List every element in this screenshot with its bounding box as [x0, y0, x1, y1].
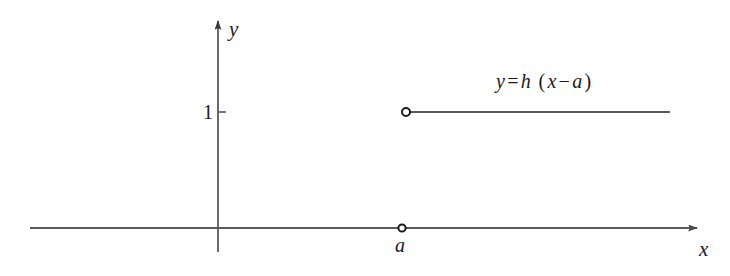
equation-equals: = — [505, 70, 521, 92]
equation-lhs: y — [496, 70, 505, 92]
curve-equation-label: y=h (x−a) — [496, 70, 593, 93]
step-left-endpoint-open-circle — [402, 108, 410, 116]
y-axis-label: y — [229, 17, 238, 42]
equation-minus: − — [557, 70, 573, 92]
figure-canvas — [0, 0, 730, 276]
y-tick-label-one: 1 — [203, 101, 213, 124]
equation-function: h — [521, 70, 531, 92]
x-axis-label: x — [699, 237, 708, 262]
step-function-figure: y x 1 a y=h (x−a) — [0, 0, 730, 276]
x-point-label-a: a — [395, 234, 405, 257]
a-point-open-circle — [398, 224, 405, 231]
equation-shift: a — [572, 70, 582, 92]
equation-argument: x — [547, 70, 556, 92]
equation-close-paren: ) — [582, 70, 593, 92]
equation-open-paren: ( — [536, 70, 547, 92]
